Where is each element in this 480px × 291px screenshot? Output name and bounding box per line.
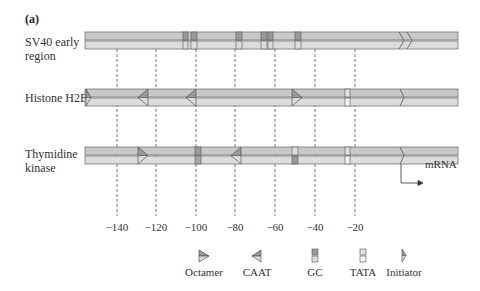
thymidine-kinase-bar [85,147,458,186]
octamer-icon [199,250,209,262]
guide-lines [117,49,355,216]
tick-label: −80 [226,221,243,233]
tick-label: −100 [185,221,208,233]
tick-label: −20 [346,221,363,233]
legend-label-gc: GC [307,266,322,278]
gc-box-icon [292,147,298,164]
legend-icons [199,249,406,262]
initiator-icon [402,249,406,262]
legend-label-caat: CAAT [243,266,272,278]
promoter-diagram [0,0,480,291]
legend-label-tata: TATA [350,266,376,278]
legend-label-octamer: Octamer [185,266,223,278]
tata-box-icon [345,147,350,164]
tata-box-icon [360,249,366,262]
mrna-label: mRNA [425,158,457,170]
caat-icon [252,250,261,262]
tick-label: −40 [306,221,323,233]
tick-label: −140 [106,221,129,233]
mrna-arrow-icon [401,164,423,186]
tick-label: −120 [145,221,168,233]
tata-box-icon [345,89,350,106]
histone-h2b-bar [85,89,458,106]
legend-label-initiator: Initiator [386,266,421,278]
gc-box-icon [312,249,318,262]
tick-label: −60 [266,221,283,233]
sv40-bar [85,32,458,49]
